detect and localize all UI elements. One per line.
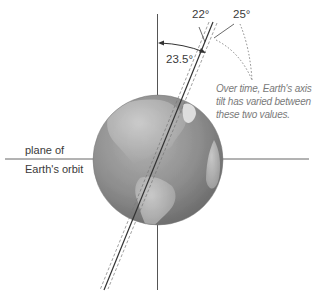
angle-label-22: 22° — [192, 8, 209, 20]
angle-label-25: 25° — [233, 8, 250, 20]
dotted-arc-inner — [216, 40, 252, 80]
dotted-arc-outer — [240, 24, 252, 80]
angle-label-23-5: 23.5° — [166, 53, 193, 65]
tilt-note-line1: Over time, Earth's axis — [216, 82, 312, 95]
orbit-label-line1: plane of — [25, 144, 64, 156]
earth-globe — [93, 95, 223, 230]
leader-25 — [214, 24, 234, 38]
tilt-note-line3: these two values. — [216, 108, 312, 121]
orbit-label-line2: Earth's orbit — [25, 163, 83, 175]
tilt-note-line2: tilt has varied between — [216, 95, 312, 108]
leader-22 — [199, 27, 205, 42]
tilt-note: Over time, Earth's axis tilt has varied … — [216, 82, 312, 121]
